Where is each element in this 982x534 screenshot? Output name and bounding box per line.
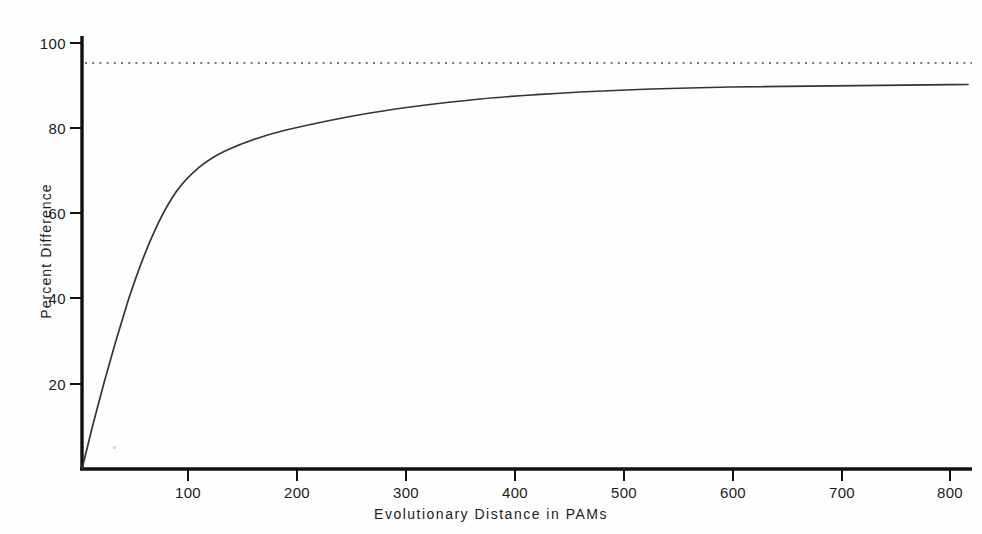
y-axis-ticks (70, 43, 82, 384)
y-tick-label-100: 100 (14, 35, 66, 52)
y-tick-label-20: 20 (14, 376, 66, 393)
y-tick-label-60: 60 (14, 205, 66, 222)
x-tick-label-300: 300 (393, 484, 419, 501)
x-tick-label-100: 100 (175, 484, 201, 501)
y-tick-label-40: 40 (14, 290, 66, 307)
x-tick-label-700: 700 (829, 484, 855, 501)
plot-canvas (0, 0, 982, 534)
x-tick-label-200: 200 (284, 484, 310, 501)
x-axis-title: Evolutionary Distance in PAMs (0, 506, 982, 522)
x-tick-label-400: 400 (502, 484, 528, 501)
y-tick-label-80: 80 (14, 120, 66, 137)
x-tick-label-800: 800 (937, 484, 963, 501)
axis-lines (80, 36, 972, 470)
y-axis-title: Percent Difference (38, 151, 54, 351)
chart-figure: Percent Difference 100 80 60 40 20 100 2… (0, 0, 982, 534)
data-curve (82, 85, 968, 470)
x-tick-label-600: 600 (720, 484, 746, 501)
x-tick-label-500: 500 (611, 484, 637, 501)
scan-artifact-speck (113, 446, 116, 449)
x-axis-ticks (188, 469, 950, 481)
